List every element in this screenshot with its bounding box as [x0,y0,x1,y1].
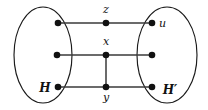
group-label-H-prime: H′ [162,83,178,97]
diagram-canvas: z x y u H H′ [0,0,208,110]
graph-diagram: z x y u H H′ [0,0,208,110]
vertex-label-z: z [102,3,109,16]
vertex-h2 [54,52,61,59]
vertex-hp2 [149,52,156,59]
vertex-y [103,84,110,91]
vertex-label-y: y [102,91,110,104]
vertex-u [149,20,156,27]
vertex-hp3 [149,84,156,91]
vertex-z [103,20,110,27]
group-label-H: H [38,81,51,95]
vertex-h1 [55,20,62,27]
vertex-x [103,52,110,59]
vertex-label-x: x [103,35,110,48]
vertex-h3 [55,84,62,91]
vertex-label-u: u [159,17,166,30]
vertex-labels: z x y u [102,3,166,104]
